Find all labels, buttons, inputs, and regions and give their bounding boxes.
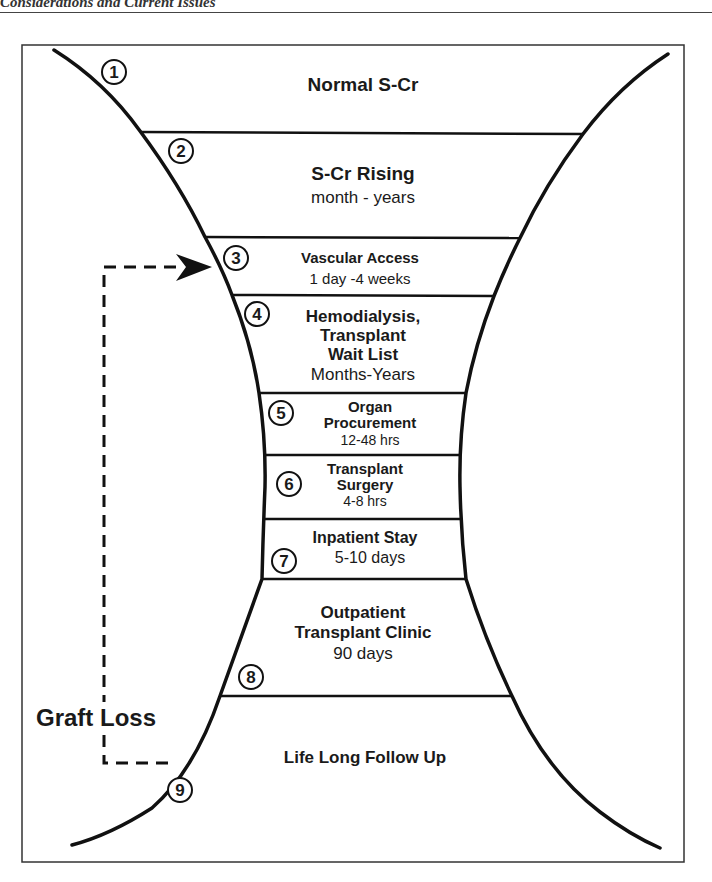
graft-loss-label: Graft Loss <box>36 704 156 731</box>
stage-9-title: Life Long Follow Up <box>284 748 446 767</box>
stage-2-title: S-Cr Rising <box>311 163 414 184</box>
stage-5-duration: 12-48 hrs <box>340 432 399 448</box>
graft-loss-loop: Graft Loss <box>30 254 212 763</box>
stage-number-7: 7 <box>279 552 288 571</box>
stage-2-duration: month - years <box>311 188 415 207</box>
stage-number-markers <box>102 60 301 802</box>
stage-number-6: 6 <box>284 475 293 494</box>
stage-4-duration: Months-Years <box>311 365 415 384</box>
stage-8-title-line-1: Outpatient <box>321 603 406 622</box>
stage-number-5: 5 <box>276 404 285 423</box>
stage-number-3: 3 <box>231 249 240 268</box>
stage-8-title-line-2: Transplant Clinic <box>295 623 432 642</box>
hourglass-diagram: Graft Loss 1 2 3 4 5 6 7 8 9 Normal S-Cr… <box>0 0 712 882</box>
arrowhead-icon <box>176 254 212 281</box>
stage-4-title-line-2: Transplant <box>320 326 406 345</box>
dashed-feedback-line <box>104 267 180 763</box>
stage-5-title-line-1: Organ <box>348 398 392 415</box>
stage-number-8: 8 <box>246 668 255 687</box>
stage-3-title: Vascular Access <box>301 249 419 266</box>
stage-3-duration: 1 day -4 weeks <box>310 270 411 287</box>
hourglass-right-edge <box>460 54 668 848</box>
stage-4-title-line-1: Hemodialysis, <box>306 307 420 326</box>
stage-6-title-line-2: Surgery <box>337 476 394 493</box>
stage-number-2: 2 <box>176 142 185 161</box>
stage-number-1: 1 <box>109 63 118 82</box>
stage-number-9: 9 <box>175 781 184 800</box>
stage-number-4: 4 <box>252 305 262 324</box>
stage-7-title: Inpatient Stay <box>313 529 418 546</box>
stage-6-title-line-1: Transplant <box>327 460 403 477</box>
stage-7-duration: 5-10 days <box>335 549 405 566</box>
stage-5-title-line-2: Procurement <box>324 414 417 431</box>
stage-6-duration: 4-8 hrs <box>343 493 387 509</box>
stage-4-title-line-3: Wait List <box>328 345 399 364</box>
stage-8-duration: 90 days <box>333 644 393 663</box>
stage-1-title: Normal S-Cr <box>308 74 419 95</box>
